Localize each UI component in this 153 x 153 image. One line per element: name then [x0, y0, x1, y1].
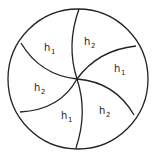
svg-text:2: 2 [106, 111, 110, 119]
svg-text:1: 1 [121, 69, 125, 77]
svg-text:h: h [34, 82, 40, 93]
region-label-0: h1 [44, 42, 55, 56]
svg-text:h: h [44, 42, 50, 53]
svg-text:2: 2 [41, 88, 45, 96]
svg-text:2: 2 [91, 42, 95, 50]
svg-text:1: 1 [51, 48, 55, 56]
region-label-4: h1 [61, 110, 72, 124]
divider-bottom [76, 79, 82, 148]
divider-lower-left [20, 79, 77, 112]
region-label-1: h2 [84, 36, 95, 50]
svg-text:h: h [61, 110, 67, 121]
svg-text:h: h [99, 105, 105, 116]
svg-text:1: 1 [68, 116, 72, 124]
divider-lower-right [77, 79, 134, 115]
divider-top [72, 9, 79, 79]
pinwheel-diagram: h1 h2 h1 h2 h1 h2 [0, 0, 153, 153]
svg-text:h: h [114, 63, 120, 74]
region-label-2: h1 [114, 63, 125, 77]
divider-upper-right [77, 46, 136, 79]
region-label-3: h2 [34, 82, 45, 96]
svg-text:h: h [84, 36, 90, 47]
region-label-5: h2 [99, 105, 110, 119]
